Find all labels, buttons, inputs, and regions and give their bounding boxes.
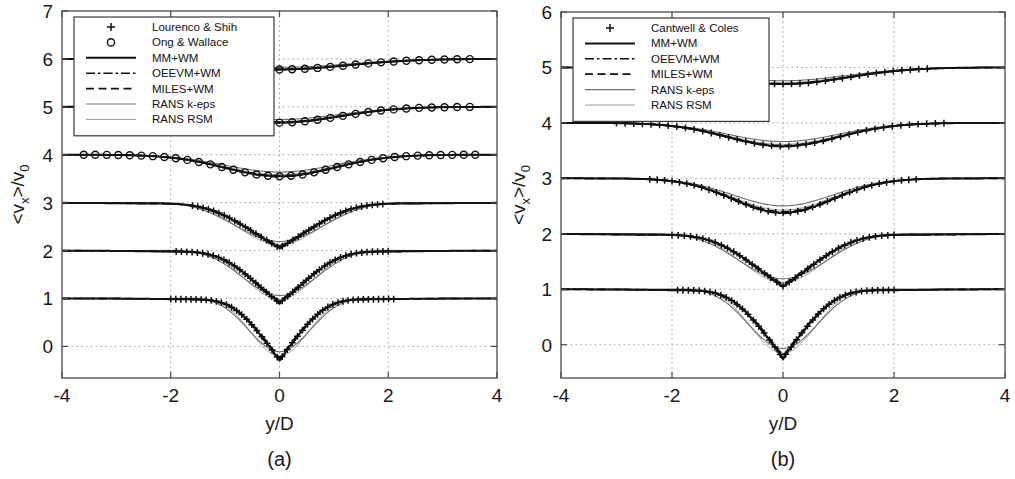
y-tick-label: 4 [42, 145, 53, 166]
plot-b: 0123456-4-2024y/D(b)<vx>/v0Cantwell & Co… [505, 0, 1015, 479]
plot-a: 01234567-4-2024y/D(a)<vx>/v0Lourenco & S… [0, 0, 510, 479]
legend-label: MILES+WM [152, 83, 214, 95]
x-tick-label: 2 [383, 385, 394, 406]
y-tick-label: 5 [42, 97, 53, 118]
markers-plus [167, 296, 397, 361]
x-tick-label: 0 [274, 385, 285, 406]
y-tick-label: 1 [541, 279, 552, 300]
legend-label: MILES+WM [651, 68, 713, 80]
legend-label: Lourenco & Shih [152, 21, 237, 33]
x-tick-label: 4 [1000, 385, 1011, 406]
curve-miles-wm [561, 289, 1005, 356]
legend-label: RANS k-eps [152, 98, 216, 110]
legend-label: RANS RSM [651, 99, 712, 111]
x-tick-label: 4 [492, 385, 503, 406]
panel-b: 0123456-4-2024y/D(b)<vx>/v0Cantwell & Co… [505, 0, 1015, 479]
x-axis-title: y/D [265, 413, 294, 434]
y-tick-label: 3 [541, 168, 552, 189]
profile-station-5 [561, 287, 1005, 360]
markers-plus [646, 176, 919, 216]
x-tick-label: -2 [664, 385, 681, 406]
markers-plus [189, 201, 386, 250]
y-tick-label: 7 [42, 1, 53, 22]
legend-label: MM+WM [651, 37, 697, 49]
y-tick-label: 3 [42, 193, 53, 214]
x-axis-title: y/D [769, 413, 798, 434]
legend-label: OEEVM+WM [152, 67, 221, 79]
legend: Lourenco & ShihOng & WallaceMM+WMOEEVM+W… [74, 17, 274, 136]
y-tick-label: 5 [541, 57, 552, 78]
y-tick-label: 4 [541, 113, 552, 134]
markers-plus [674, 287, 897, 358]
panel-caption: (a) [267, 448, 291, 470]
legend: Cantwell & ColesMM+WMOEEVM+WMMILES+WMRAN… [573, 18, 769, 121]
y-tick-label: 6 [42, 49, 53, 70]
curve-mm-wm [62, 298, 497, 360]
panel-caption: (b) [771, 448, 795, 470]
panel-a: 01234567-4-2024y/D(a)<vx>/v0Lourenco & S… [0, 0, 510, 479]
curve-rans-keps [561, 178, 1005, 206]
x-tick-label: -2 [162, 385, 179, 406]
profile-station-2 [561, 120, 1005, 150]
x-tick-label: -4 [54, 385, 71, 406]
legend-label: MM+WM [152, 52, 198, 64]
y-tick-label: 2 [42, 241, 53, 262]
y-axis-title: <vx>/v0 [7, 164, 32, 224]
legend-label: RANS k-eps [651, 84, 715, 96]
y-tick-label: 0 [42, 336, 53, 357]
curve-mm-wm [561, 289, 1005, 358]
figure-root: 01234567-4-2024y/D(a)<vx>/v0Lourenco & S… [0, 0, 1015, 479]
y-tick-label: 1 [42, 288, 53, 309]
y-axis-title: <vx>/v0 [508, 165, 533, 225]
x-tick-label: 0 [778, 385, 789, 406]
y-tick-label: 0 [541, 335, 552, 356]
legend-label: RANS RSM [152, 113, 213, 125]
legend-label: OEEVM+WM [651, 53, 720, 65]
svg-text:<vx>/v0: <vx>/v0 [508, 165, 533, 225]
y-tick-label: 6 [541, 2, 552, 23]
y-tick-label: 2 [541, 224, 552, 245]
curve-rans-rsm [62, 250, 497, 299]
legend-label: Ong & Wallace [152, 36, 228, 48]
profile-station-3 [561, 176, 1005, 216]
svg-text:<vx>/v0: <vx>/v0 [7, 164, 32, 224]
legend-label: Cantwell & Coles [651, 22, 739, 34]
x-tick-label: -4 [553, 385, 570, 406]
x-tick-label: 2 [889, 385, 900, 406]
